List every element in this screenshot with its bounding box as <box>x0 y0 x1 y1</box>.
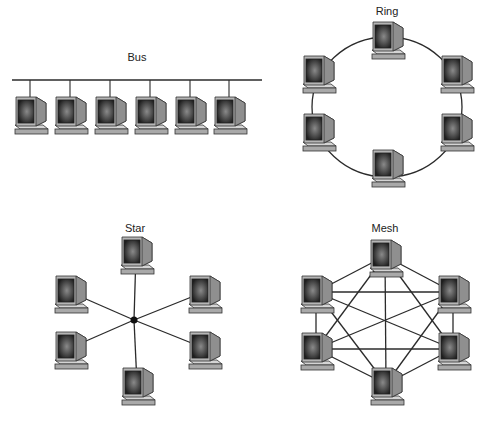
ring-computer-icon <box>303 56 336 93</box>
ring-computer-icon <box>372 22 405 59</box>
network-topologies-diagram <box>0 0 496 431</box>
bus-computer-icon <box>135 97 168 134</box>
mesh-computer-icon <box>438 276 471 313</box>
star-computer-icon <box>55 276 88 313</box>
star-computer-icon <box>121 237 154 274</box>
star-computer-icon <box>189 276 222 313</box>
topology-label-star: Star <box>125 222 145 234</box>
bus-computer-icon <box>214 97 247 134</box>
star-computer-icon <box>55 332 88 369</box>
ring-computer-icon <box>441 114 474 151</box>
mesh-computer-icon <box>370 240 403 277</box>
mesh-computer-icon <box>438 333 471 370</box>
ring-computer-icon <box>441 56 474 93</box>
star-computer-icon <box>189 332 222 369</box>
bus-computer-icon <box>95 97 128 134</box>
star-computer-icon <box>122 368 155 405</box>
topology-label-bus: Bus <box>128 51 147 63</box>
ring-computer-icon <box>372 150 405 187</box>
topology-label-mesh: Mesh <box>372 222 399 234</box>
bus-computer-icon <box>175 97 208 134</box>
ring-computer-icon <box>303 114 336 151</box>
mesh-computer-icon <box>301 333 334 370</box>
topology-label-ring: Ring <box>376 5 399 17</box>
bus-computer-icon <box>55 97 88 134</box>
mesh-computer-icon <box>301 276 334 313</box>
mesh-computer-icon <box>371 368 404 405</box>
bus-computer-icon <box>15 97 48 134</box>
connection-lines <box>12 37 462 384</box>
